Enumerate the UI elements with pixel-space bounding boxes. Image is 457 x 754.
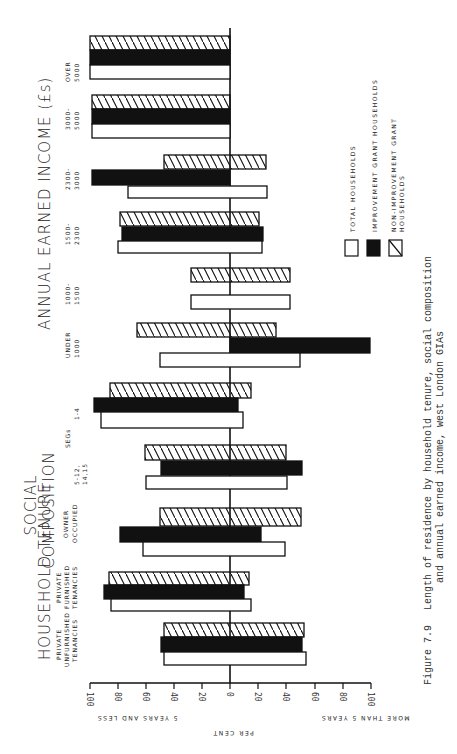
svg-text:80: 80: [113, 692, 122, 702]
svg-text:UNDER: UNDER: [64, 332, 71, 358]
svg-text:UNFURNISHED: UNFURNISHED: [63, 612, 70, 667]
left-axis-label: 5 YEARS AND LESS: [96, 715, 177, 722]
chart-figure: 100 80 60 40 20 0 20 40 60 80 100 5 YEAR…: [0, 0, 457, 754]
svg-text:5000: 5000: [73, 111, 80, 130]
svg-text:PRIVATE: PRIVATE: [55, 629, 62, 660]
figure-caption-line2: and annual earned income, west London GI…: [435, 331, 446, 583]
right-axis-label: MORE THAN 5 YEARS: [320, 715, 409, 722]
svg-text:1-4: 1-4: [73, 407, 80, 420]
legend-label-non-improvement-1: NON-IMPROVEMENT GRANT: [390, 118, 397, 232]
svg-text:100: 100: [85, 692, 94, 707]
svg-text:14,15: 14,15: [81, 463, 88, 485]
svg-text:PRIVATE: PRIVATE: [55, 572, 62, 603]
group-title-income: ANNUAL EARNED INCOME (£s): [36, 77, 54, 330]
figure-caption-line1: Length of residence by household tenure,…: [423, 256, 434, 610]
axis-ticks: [90, 683, 371, 689]
svg-text:1000-: 1000-: [64, 283, 71, 305]
svg-text:0: 0: [225, 692, 234, 697]
svg-text:1500: 1500: [73, 286, 80, 305]
svg-text:20: 20: [253, 692, 262, 702]
tick-labels: 100 80 60 40 20 0 20 40 60 80 100: [85, 692, 375, 707]
svg-text:OVER: OVER: [64, 61, 71, 82]
group-title-tenure: HOUSEHOLD TENURE: [36, 482, 54, 660]
figure-label: Figure 7.9: [423, 625, 434, 685]
legend: TOTAL HOUSEHOLDS IMPROVEMENT GRANT HOUSE…: [345, 79, 405, 256]
svg-text:SEGs: SEGs: [64, 429, 71, 448]
svg-text:1500-: 1500-: [64, 223, 71, 245]
svg-text:OWNER: OWNER: [62, 510, 69, 538]
svg-text:80: 80: [338, 692, 347, 702]
svg-text:3000-: 3000-: [64, 108, 71, 130]
svg-text:60: 60: [141, 692, 150, 702]
svg-text:2300-: 2300-: [64, 168, 71, 190]
svg-text:TENANCIES: TENANCIES: [71, 619, 78, 663]
legend-label-improvement: IMPROVEMENT GRANT HOUSEHOLDS: [371, 79, 378, 232]
svg-text:40: 40: [281, 692, 290, 702]
per-cent-label: PER CENT: [212, 730, 254, 737]
legend-label-total: TOTAL HOUSEHOLDS: [349, 145, 356, 233]
svg-text:TENANCIES: TENANCIES: [71, 566, 78, 610]
svg-text:1000: 1000: [73, 339, 80, 358]
svg-text:OCCUPIED: OCCUPIED: [71, 504, 78, 543]
legend-label-non-improvement-2: HOUSEHOLDS: [398, 175, 405, 232]
legend-swatch-improvement: [367, 240, 380, 256]
svg-text:FURNISHED: FURNISHED: [63, 565, 70, 609]
svg-text:100: 100: [366, 692, 375, 707]
svg-text:3000: 3000: [73, 171, 80, 190]
svg-text:5000: 5000: [73, 63, 80, 82]
legend-swatch-total: [345, 240, 358, 256]
svg-text:20: 20: [197, 692, 206, 702]
category-labels: OVER 5000 3000- 5000 2300- 3000 1500- 23…: [55, 61, 88, 667]
svg-text:40: 40: [169, 692, 178, 702]
svg-text:60: 60: [310, 692, 319, 702]
svg-text:2300: 2300: [73, 226, 80, 245]
svg-text:5-12,: 5-12,: [73, 464, 80, 485]
